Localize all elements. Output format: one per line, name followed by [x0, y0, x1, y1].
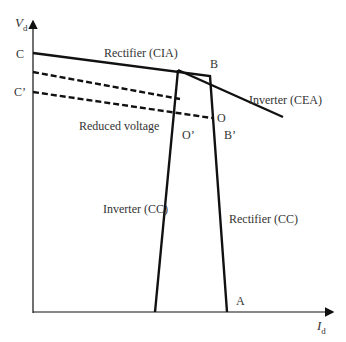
rectifier-cia-cc-line [33, 53, 227, 312]
inverter-cc-label: Inverter (CC) [103, 203, 168, 215]
point-c-label: C [16, 48, 24, 60]
vi-characteristic-diagram: Vd Id C C’ B O O’ B’ A Rectifier (CIA) I… [0, 0, 346, 342]
point-o-label: O [217, 112, 226, 124]
x-axis-label: Id [317, 319, 326, 336]
point-b-label: B [210, 58, 218, 70]
inverter-cea-label: Inverter (CEA) [249, 94, 322, 106]
point-a-label: A [236, 295, 245, 307]
inverter-cc-line [155, 70, 178, 312]
reduced-voltage-dashed-line [33, 92, 212, 118]
point-o-prime-label: O’ [182, 129, 195, 141]
y-axis-label: Vd [15, 16, 27, 33]
reduced-voltage-label: Reduced voltage [79, 120, 159, 132]
rectifier-cc-label: Rectifier (CC) [229, 213, 298, 225]
point-b-prime-label: B’ [224, 129, 236, 141]
point-c-prime-label: C’ [14, 86, 26, 98]
rectifier-cia-label: Rectifier (CIA) [104, 47, 178, 59]
